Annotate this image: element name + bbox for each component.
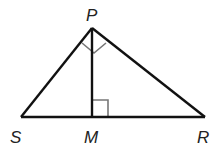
label-m: M: [84, 128, 99, 147]
right-angle-mark-m: [92, 100, 108, 117]
label-s: S: [10, 128, 22, 147]
segment-pr: [92, 28, 205, 117]
right-angle-mark-p: [82, 43, 106, 53]
label-r: R: [197, 128, 209, 147]
label-p: P: [86, 6, 98, 25]
triangle-diagram: P S M R: [0, 0, 224, 152]
segment-sp: [21, 28, 92, 117]
